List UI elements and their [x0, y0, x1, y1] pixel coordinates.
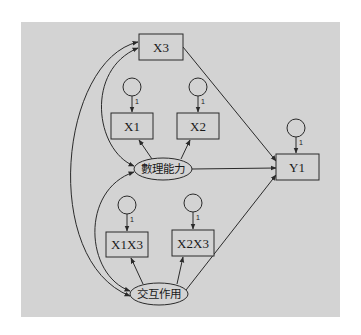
- node-label: X1: [124, 119, 140, 134]
- node-interaction[interactable]: 交互作用: [130, 283, 188, 305]
- error-circle-icon: [189, 78, 207, 96]
- node-label: X2X3: [177, 236, 209, 251]
- node-x2x3[interactable]: X2X3: [172, 230, 214, 256]
- node-label: X2: [190, 119, 206, 134]
- node-y1[interactable]: Y1: [276, 154, 319, 180]
- error-circle-icon: [184, 194, 202, 212]
- error-weight: 1: [299, 139, 303, 146]
- error-weight: 1: [201, 98, 205, 105]
- error-circle-icon: [118, 196, 136, 214]
- node-x1[interactable]: X1: [111, 113, 153, 139]
- error-circle-icon: [123, 78, 141, 96]
- sem-diagram: 1 1 1 1 1 X3 X1 X2 Y1 X1X3: [0, 0, 361, 335]
- node-label: Y1: [289, 160, 305, 175]
- node-label: X3: [153, 40, 169, 55]
- node-label: X1X3: [111, 237, 143, 252]
- node-label: 交互作用: [137, 287, 181, 301]
- node-label: 數理能力: [141, 162, 185, 176]
- node-math-ability[interactable]: 數理能力: [134, 158, 192, 180]
- error-weight: 1: [130, 216, 134, 223]
- node-x3[interactable]: X3: [139, 34, 183, 60]
- error-circle-icon: [287, 119, 305, 137]
- node-x2[interactable]: X2: [177, 113, 219, 139]
- node-x1x3[interactable]: X1X3: [106, 232, 148, 257]
- error-weight: 1: [135, 98, 139, 105]
- error-weight: 1: [196, 214, 200, 221]
